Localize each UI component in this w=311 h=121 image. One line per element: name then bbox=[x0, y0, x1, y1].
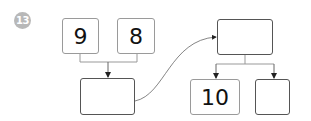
split-answer-box[interactable] bbox=[255, 79, 290, 115]
addend-1-value: 9 bbox=[74, 24, 88, 49]
addend-box-2: 8 bbox=[117, 18, 155, 54]
addend-2-value: 8 bbox=[129, 24, 143, 49]
sum-answer-box[interactable] bbox=[80, 78, 135, 115]
target-answer-box[interactable] bbox=[217, 19, 273, 55]
tens-value: 10 bbox=[201, 85, 229, 110]
split-box-tens: 10 bbox=[190, 79, 240, 115]
merge-connector bbox=[80, 54, 137, 62]
addend-box-1: 9 bbox=[62, 18, 99, 54]
